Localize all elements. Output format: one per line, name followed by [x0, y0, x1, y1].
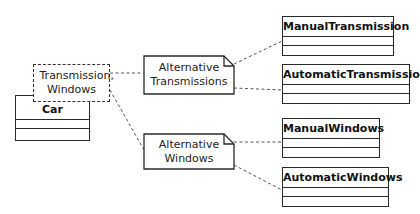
class-attributes [283, 85, 409, 94]
class-attributes [16, 120, 89, 129]
class-operations [283, 197, 388, 206]
class-name: AutomaticWindows [283, 168, 388, 188]
note-alternative-windows[interactable]: Alternative Windows [144, 134, 234, 169]
connector-to-manual-transmission [234, 41, 282, 64]
connector-tag-to-windows [110, 90, 144, 150]
class-operations [283, 148, 379, 157]
note-label: Alternative Windows [154, 138, 224, 166]
note-label: Alternative Transmissions [149, 61, 229, 89]
note-alternative-transmissions[interactable]: Alternative Transmissions [144, 56, 234, 94]
class-attributes [283, 139, 379, 148]
class-name: ManualTransmission [283, 17, 393, 37]
class-name: AutomaticTransmission [283, 65, 409, 85]
class-automatic-transmission[interactable]: AutomaticTransmission [282, 64, 410, 104]
class-attributes [283, 37, 393, 46]
class-operations [16, 129, 89, 138]
class-manual-windows[interactable]: ManualWindows [282, 118, 380, 158]
class-manual-transmission[interactable]: ManualTransmission [282, 16, 394, 56]
connector-to-automatic-transmission [234, 88, 282, 90]
tagged-value-label: Transmission, Windows [40, 69, 104, 97]
connector-to-automatic-windows [234, 165, 282, 190]
class-name: ManualWindows [283, 119, 379, 139]
class-operations [283, 46, 393, 55]
class-automatic-windows[interactable]: AutomaticWindows [282, 167, 389, 207]
tagged-value-box[interactable]: Transmission, Windows [33, 64, 110, 102]
class-attributes [283, 188, 388, 197]
class-operations [283, 94, 409, 103]
